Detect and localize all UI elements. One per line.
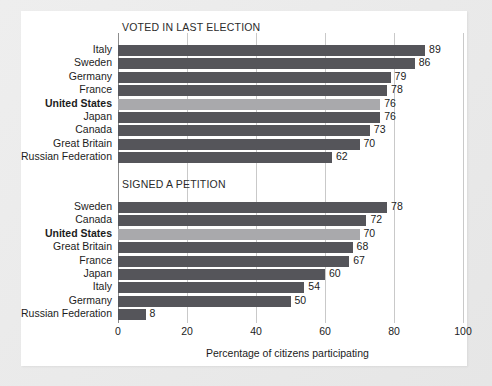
- bar-row: Russian Federation8: [21, 308, 467, 321]
- x-tick-label-0: 0: [103, 325, 133, 337]
- bar: [118, 99, 380, 110]
- x-tick-label-60: 60: [310, 325, 340, 337]
- bar-value-label: 8: [150, 307, 156, 320]
- bar-value-label: 70: [364, 137, 376, 150]
- category-label: Great Britain: [21, 240, 112, 253]
- bar: [118, 229, 360, 240]
- bar: [118, 256, 349, 267]
- category-label: France: [21, 83, 112, 96]
- category-label: Russian Federation: [21, 307, 112, 320]
- bar-value-label: 79: [395, 70, 407, 83]
- bar: [118, 296, 291, 307]
- screenshot-root: VOTED IN LAST ELECTIONItaly89Sweden86Ger…: [0, 0, 492, 386]
- bar: [118, 282, 304, 293]
- bar-value-label: 86: [419, 56, 431, 69]
- bar: [118, 215, 366, 226]
- bar-row: Sweden86: [21, 57, 467, 70]
- bar-value-label: 70: [364, 227, 376, 240]
- bar: [118, 58, 415, 69]
- bar-row: Great Britain70: [21, 138, 467, 151]
- group-title-2: SIGNED A PETITION: [122, 178, 226, 190]
- bar-row: Russian Federation62: [21, 151, 467, 164]
- category-label: Japan: [21, 267, 112, 280]
- x-tick-label-20: 20: [172, 325, 202, 337]
- x-axis-title: Percentage of citizens participating: [206, 347, 369, 359]
- bar-row: United States70: [21, 228, 467, 241]
- x-tick-label-80: 80: [379, 325, 409, 337]
- bar: [118, 112, 380, 123]
- category-label: Germany: [21, 294, 112, 307]
- category-label: United States: [21, 97, 112, 110]
- bar-row: Germany50: [21, 295, 467, 308]
- bar-value-label: 62: [336, 150, 348, 163]
- bar-row: United States76: [21, 98, 467, 111]
- bar: [118, 309, 146, 320]
- bar-value-label: 54: [308, 280, 320, 293]
- x-tick-label-40: 40: [241, 325, 271, 337]
- bar-value-label: 68: [357, 240, 369, 253]
- bar: [118, 45, 425, 56]
- category-label: Sweden: [21, 200, 112, 213]
- bar-row: Canada72: [21, 214, 467, 227]
- bar: [118, 269, 325, 280]
- category-label: Canada: [21, 213, 112, 226]
- bar-value-label: 67: [353, 254, 365, 267]
- category-label: United States: [21, 227, 112, 240]
- x-tick-label-100: 100: [448, 325, 478, 337]
- bar: [118, 72, 391, 83]
- bar: [118, 139, 360, 150]
- category-label: France: [21, 254, 112, 267]
- bar: [118, 125, 370, 136]
- group-title-1: VOTED IN LAST ELECTION: [122, 21, 260, 33]
- bar-value-label: 72: [370, 213, 382, 226]
- bar-value-label: 76: [384, 97, 396, 110]
- bar-value-label: 76: [384, 110, 396, 123]
- bar-row: Great Britain68: [21, 241, 467, 254]
- bar-row: France78: [21, 84, 467, 97]
- category-label: Japan: [21, 110, 112, 123]
- chart-plot-area: VOTED IN LAST ELECTIONItaly89Sweden86Ger…: [21, 11, 467, 366]
- bar: [118, 202, 387, 213]
- category-label: Russian Federation: [21, 150, 112, 163]
- category-label: Germany: [21, 70, 112, 83]
- category-label: Great Britain: [21, 137, 112, 150]
- bar-value-label: 78: [391, 200, 403, 213]
- bar-value-label: 78: [391, 83, 403, 96]
- category-label: Canada: [21, 123, 112, 136]
- bar-row: Germany79: [21, 71, 467, 84]
- category-label: Sweden: [21, 56, 112, 69]
- chart-card: VOTED IN LAST ELECTIONItaly89Sweden86Ger…: [21, 11, 467, 366]
- bar-row: Italy89: [21, 44, 467, 57]
- bar-row: Japan60: [21, 268, 467, 281]
- bar-value-label: 89: [429, 43, 441, 56]
- category-label: Italy: [21, 280, 112, 293]
- bar-value-label: 50: [295, 294, 307, 307]
- bar-row: Italy54: [21, 281, 467, 294]
- bar-row: France67: [21, 255, 467, 268]
- bar: [118, 152, 332, 163]
- bar-value-label: 60: [329, 267, 341, 280]
- bar-value-label: 73: [374, 123, 386, 136]
- bar: [118, 85, 387, 96]
- bar-row: Canada73: [21, 124, 467, 137]
- bar: [118, 242, 353, 253]
- bar-row: Sweden78: [21, 201, 467, 214]
- category-label: Italy: [21, 43, 112, 56]
- bar-row: Japan76: [21, 111, 467, 124]
